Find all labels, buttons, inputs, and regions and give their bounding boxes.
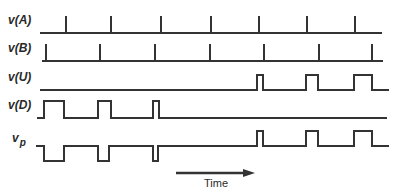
- signal-label-vp-subscript: p: [19, 137, 26, 148]
- time-arrow-head-icon: [243, 169, 255, 177]
- signal-label-vU: v(U): [8, 70, 31, 84]
- waveform-vD: [37, 101, 387, 118]
- signal-label-vD: v(D): [8, 98, 31, 112]
- waveform-vU: [40, 75, 389, 90]
- waveform-vA: [40, 16, 382, 33]
- signal-label-vB: v(B): [8, 41, 31, 55]
- signal-label-vA: v(A): [8, 13, 31, 27]
- waveform-vp: [36, 131, 389, 161]
- signal-label-vp: vp: [12, 131, 26, 148]
- waveform-vB: [42, 44, 383, 61]
- time-axis: Time: [176, 169, 255, 189]
- time-axis-label: Time: [204, 177, 228, 189]
- timing-diagram: v(A) v(B) v(U) v(D) vp Time: [0, 0, 401, 196]
